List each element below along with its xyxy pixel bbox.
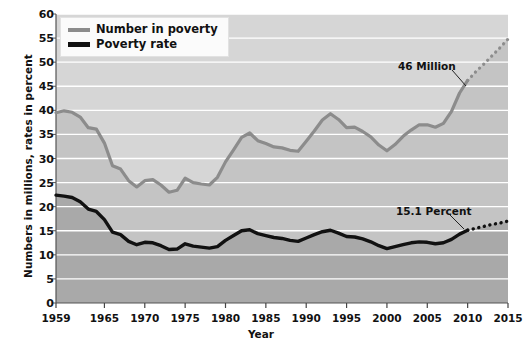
- x-axis-tick: 1990: [292, 312, 321, 324]
- y-axis-tick: 60: [20, 8, 54, 21]
- x-axis-tick: 1965: [90, 312, 119, 324]
- y-axis-title: Numbers in millions, rates in percent: [22, 41, 34, 291]
- x-axis-tick: 1995: [332, 312, 361, 324]
- legend-item-number-in-poverty: Number in poverty: [68, 22, 218, 37]
- x-axis-tick: 2010: [453, 312, 482, 324]
- x-axis-tick: 2005: [413, 312, 442, 324]
- legend-swatch-black-icon: [68, 42, 90, 47]
- legend-label-poverty-rate: Poverty rate: [96, 37, 177, 52]
- legend-swatch-gray-icon: [68, 28, 90, 32]
- x-axis-tick: 2015: [493, 312, 522, 324]
- y-axis-tick: 0: [20, 297, 54, 310]
- annotation-15-1-percent: 15.1 Percent: [396, 205, 471, 217]
- x-axis-tick: 1985: [251, 312, 280, 324]
- annotation-46-million: 46 Million: [398, 60, 456, 72]
- legend-label-number-in-poverty: Number in poverty: [96, 22, 218, 37]
- chart-legend: Number in poverty Poverty rate: [60, 17, 229, 57]
- x-axis-tick: 1970: [130, 312, 159, 324]
- legend-item-poverty-rate: Poverty rate: [68, 37, 218, 52]
- x-axis-tick: 1975: [171, 312, 200, 324]
- x-axis-tick: 2000: [372, 312, 401, 324]
- x-axis-title: Year: [0, 328, 522, 340]
- x-axis-tick: 1959: [41, 312, 70, 324]
- x-axis-tick: 1980: [211, 312, 240, 324]
